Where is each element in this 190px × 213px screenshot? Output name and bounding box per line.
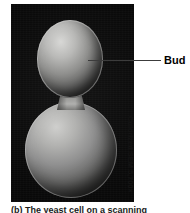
bud-cell bbox=[37, 20, 103, 98]
bud-leader-line bbox=[88, 60, 161, 61]
bud-label: Bud bbox=[164, 53, 186, 67]
bud-cell-rim bbox=[37, 20, 103, 98]
figure-caption: (b) The yeast cell on a scanning bbox=[11, 205, 171, 213]
mother-cell bbox=[25, 102, 117, 198]
figure-panel: Bud Colorized SEM 5,700× (b) The yeast c… bbox=[0, 0, 190, 213]
mother-cell-rim bbox=[25, 102, 117, 198]
micrograph-image bbox=[11, 4, 134, 202]
photo-credit-text: Colorized SEM 5,700× bbox=[125, 116, 136, 200]
